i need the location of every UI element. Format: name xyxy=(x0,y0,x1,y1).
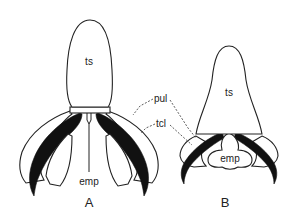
panel-b-letter: B xyxy=(221,195,230,210)
pul-leader-a xyxy=(133,99,153,115)
panel-b: ts emp B xyxy=(180,46,278,210)
tcl-leader-a xyxy=(141,124,155,133)
panel-b-emp-label: emp xyxy=(220,153,240,164)
panel-a-collar xyxy=(70,107,110,113)
tcl-label: tcl xyxy=(156,118,166,129)
pul-leader-b xyxy=(170,100,196,138)
panel-a: ts emp A xyxy=(20,20,158,210)
tcl-leader-b xyxy=(170,125,192,145)
panel-a-ts-label: ts xyxy=(85,56,93,67)
leg-tip-diagram: ts emp A ts emp B pul tcl xyxy=(0,0,290,223)
panel-b-ts-label: ts xyxy=(225,87,233,98)
panel-a-letter: A xyxy=(85,195,94,210)
panel-a-empodium-stalk xyxy=(87,113,91,172)
pul-label: pul xyxy=(154,93,167,104)
panel-a-emp-label: emp xyxy=(79,176,99,187)
